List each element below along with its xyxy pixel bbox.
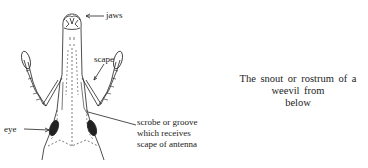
- scrobe-arrow: [88, 112, 136, 125]
- scrobe-label-line3: scape of antenna: [137, 140, 197, 149]
- right-eye-drawing: [86, 119, 99, 137]
- scape-label: scape: [94, 55, 114, 64]
- caption-line1: The snout or rostrum of a weevil from: [228, 73, 368, 97]
- left-antenna: [20, 50, 62, 106]
- caption-line2: below: [228, 97, 368, 109]
- jaws-label: jaws: [106, 11, 123, 20]
- head-outline-right: [84, 82, 104, 160]
- scape-arrow: [94, 64, 104, 80]
- eye-label: eye: [4, 125, 17, 134]
- eye-arrow: [24, 129, 49, 130]
- scrobe-label: scrobe or groove which receives scape of…: [137, 118, 197, 149]
- jaws-drawing: [64, 16, 80, 30]
- scrobe-label-line2: which receives: [137, 129, 197, 138]
- rostrum-outline: [63, 14, 84, 82]
- scrobe-label-line1: scrobe or groove: [137, 118, 197, 127]
- figure-caption: The snout or rostrum of a weevil from be…: [228, 73, 368, 109]
